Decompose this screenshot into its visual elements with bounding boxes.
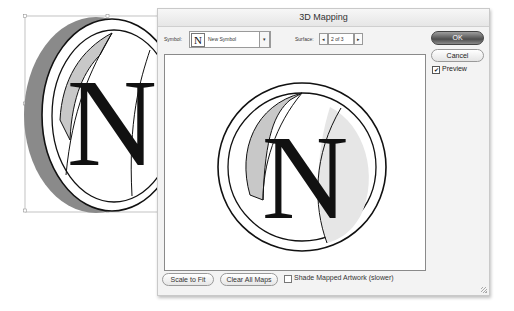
preview-label: Preview	[442, 65, 467, 72]
surface-field[interactable]: 2 of 3	[328, 33, 354, 45]
symbol-thumbnail: N	[191, 33, 205, 47]
selection-handle[interactable]	[106, 15, 109, 18]
preview-artwork-face: N	[165, 55, 425, 270]
scale-to-fit-button[interactable]: Scale to Fit	[162, 273, 214, 286]
preview-panel[interactable]: N	[164, 54, 426, 271]
selection-handle[interactable]	[24, 209, 27, 212]
surface-prev-button[interactable]: ◂	[319, 33, 328, 45]
preview-letter: N	[262, 111, 349, 244]
shade-artwork-label: Shade Mapped Artwork (slower)	[294, 274, 394, 281]
3d-mapping-dialog: 3D Mapping Symbol: N New Symbol ▾ Surfac…	[157, 8, 490, 296]
surface-label: Surface:	[295, 36, 314, 42]
ok-button[interactable]: OK	[431, 31, 484, 45]
title-bar[interactable]: 3D Mapping	[158, 9, 489, 27]
chevron-down-icon[interactable]: ▾	[259, 31, 270, 48]
symbol-label: Symbol:	[164, 36, 182, 42]
shade-artwork-checkbox[interactable]	[284, 275, 292, 283]
preview-checkbox[interactable]: ✔	[432, 66, 440, 74]
dialog-title: 3D Mapping	[158, 12, 489, 22]
surface-next-button[interactable]: ▸	[354, 33, 363, 45]
artwork-letter: N	[67, 54, 157, 192]
resize-grip[interactable]	[481, 287, 487, 293]
selection-handle[interactable]	[24, 15, 27, 18]
symbol-value: New Symbol	[208, 36, 236, 42]
cancel-button[interactable]: Cancel	[431, 49, 484, 62]
clear-all-maps-button[interactable]: Clear All Maps	[220, 273, 278, 286]
